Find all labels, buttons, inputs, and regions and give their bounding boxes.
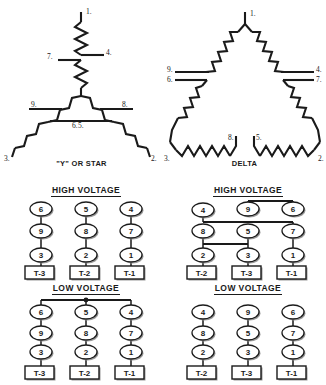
node-label: 9 xyxy=(39,329,44,338)
node-label: 2 xyxy=(201,348,206,357)
terminal-label: T-3 xyxy=(34,269,46,278)
terminal-label: T-3 xyxy=(241,269,253,278)
terminal-label: T-2 xyxy=(196,269,208,278)
delta-label-6: 6. xyxy=(167,75,173,84)
terminal-label: T-2 xyxy=(79,369,91,378)
star-label-4: 4. xyxy=(106,48,112,57)
star-label-1: 1. xyxy=(86,7,92,16)
node-label: 8 xyxy=(84,329,89,338)
node-label: 9 xyxy=(39,227,44,236)
terminal-label: T-1 xyxy=(286,269,298,278)
star-label-7: 7. xyxy=(47,52,53,61)
delta-label-4: 4. xyxy=(316,65,322,74)
junction-dot xyxy=(84,298,89,303)
delta-label-9: 9. xyxy=(167,65,173,74)
delta-label-8: 8. xyxy=(228,133,234,142)
terminal-label: T-2 xyxy=(79,269,91,278)
star-label-6: 6. xyxy=(72,121,78,130)
node-label: 1 xyxy=(129,251,134,260)
block-diagram: 6 9 3 T-3 5 8 2 xyxy=(16,296,156,385)
node-label: 5 xyxy=(84,205,89,214)
node-label: 7 xyxy=(129,227,134,236)
node-label: 4 xyxy=(201,206,206,215)
node-label: 6 xyxy=(39,205,44,214)
node-label: 8 xyxy=(201,227,206,236)
node-label: 7 xyxy=(129,329,134,338)
node-label: 3 xyxy=(246,348,251,357)
node-label: 9 xyxy=(246,205,251,214)
node-label: 3 xyxy=(246,251,251,260)
winding-schematics: 1. 4. 7. 9. 6. 3. 8. 5. 2. xyxy=(0,0,326,180)
star-caption: "Y" OR STAR xyxy=(0,159,163,168)
terminal-label: T-3 xyxy=(241,369,253,378)
star-label-8: 8. xyxy=(122,100,128,109)
node-label: 4 xyxy=(129,308,134,317)
star-schematic: 1. 4. 7. 9. 6. 3. 8. 5. 2. xyxy=(4,7,157,163)
node-label: 5 xyxy=(246,329,251,338)
terminal-label: T-1 xyxy=(286,369,298,378)
node-label: 3 xyxy=(39,251,44,260)
motor-connection-chart: 1. 4. 7. 9. 6. 3. 8. 5. 2. xyxy=(0,0,326,385)
delta-label-5: 5. xyxy=(256,133,262,142)
node-label: 6 xyxy=(291,205,296,214)
node-label: 2 xyxy=(201,251,206,260)
block-delta-low: LOW VOLTAGE 4 8 2 T-2 xyxy=(178,283,318,378)
delta-schematic: 1. 9. 6. 4. 7. 3. 2. 8. 5. xyxy=(164,9,324,163)
block-diagram: 4 8 2 T-2 9 5 3 xyxy=(178,296,318,385)
block-star-low: LOW VOLTAGE 6 9 xyxy=(16,283,156,378)
terminal-label: T-1 xyxy=(124,269,136,278)
star-label-5: 5. xyxy=(78,121,84,130)
terminal-label: T-3 xyxy=(34,369,46,378)
node-label: 1 xyxy=(291,348,296,357)
block-heading: HIGH VOLTAGE xyxy=(16,185,156,197)
node-label: 6 xyxy=(291,308,296,317)
block-diagram: 6 9 3 T-3 5 8 2 xyxy=(16,198,156,288)
node-label: 5 xyxy=(246,227,251,236)
delta-label-1: 1. xyxy=(250,9,256,18)
delta-label-7: 7. xyxy=(316,75,322,84)
node-label: 3 xyxy=(39,348,44,357)
block-delta-high: HIGH VOLTAGE xyxy=(178,185,318,275)
block-heading: LOW VOLTAGE xyxy=(16,283,156,295)
terminal-label: T-1 xyxy=(124,369,136,378)
node-label: 8 xyxy=(201,329,206,338)
node-label: 9 xyxy=(246,308,251,317)
node-label: 1 xyxy=(291,251,296,260)
star-label-9: 9. xyxy=(31,100,37,109)
node-label: 2 xyxy=(84,251,89,260)
block-star-high: HIGH VOLTAGE 6 9 3 T-3 xyxy=(16,185,156,275)
block-diagram: 4 8 2 T-2 9 5 3 xyxy=(178,198,318,288)
node-label: 8 xyxy=(84,227,89,236)
node-label: 4 xyxy=(129,205,134,214)
node-label: 1 xyxy=(129,348,134,357)
delta-caption: DELTA xyxy=(163,159,326,168)
node-label: 5 xyxy=(84,308,89,317)
node-label: 7 xyxy=(291,227,296,236)
node-label: 7 xyxy=(291,329,296,338)
terminal-label: T-2 xyxy=(196,369,208,378)
block-heading: HIGH VOLTAGE xyxy=(178,185,318,197)
node-label: 6 xyxy=(39,308,44,317)
node-label: 2 xyxy=(84,348,89,357)
block-heading: LOW VOLTAGE xyxy=(178,283,318,295)
node-label: 4 xyxy=(201,308,206,317)
